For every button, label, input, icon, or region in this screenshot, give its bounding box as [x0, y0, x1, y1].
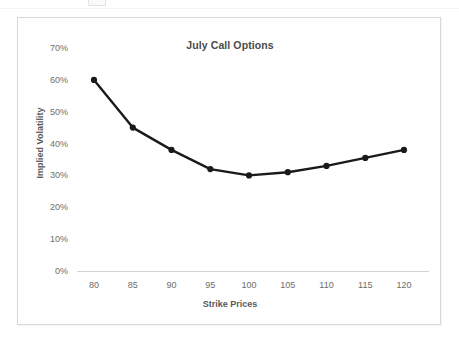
data-point-80: [91, 77, 97, 83]
series-plot: [18, 18, 442, 326]
data-point-95: [207, 166, 213, 172]
series-markers: [91, 77, 407, 179]
cropped-glyph-artifact: [88, 0, 106, 6]
data-point-90: [168, 147, 174, 153]
data-point-115: [362, 155, 368, 161]
chart-frame: July Call Options Implied Volatility Str…: [17, 17, 441, 325]
series-line-implied-volatility: [94, 80, 404, 175]
data-point-120: [401, 147, 407, 153]
data-point-110: [323, 163, 329, 169]
data-point-85: [130, 125, 136, 131]
plot-area: Implied Volatility Strike Prices 0%10%20…: [18, 18, 442, 326]
top-hairline: [0, 8, 459, 9]
top-edge-artifact: [0, 0, 459, 9]
data-point-100: [246, 172, 252, 178]
data-point-105: [285, 169, 291, 175]
